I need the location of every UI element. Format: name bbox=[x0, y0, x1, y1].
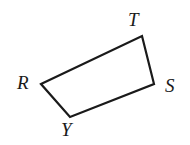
vertex-label-t: T bbox=[128, 10, 139, 29]
vertex-label-r: R bbox=[17, 73, 29, 92]
vertex-label-s: S bbox=[165, 76, 175, 95]
vertex-label-y: Y bbox=[61, 120, 72, 139]
geometry-figure: R T S Y bbox=[0, 0, 190, 145]
